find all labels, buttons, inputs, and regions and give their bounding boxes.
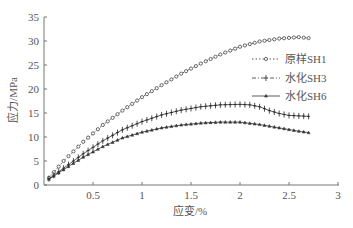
y-tick-label: 30 (28, 35, 40, 47)
y-axis-label: 应力/MPa (6, 77, 19, 123)
legend-item-2: 水化SH3 (252, 71, 327, 84)
y-tick-label: 35 (28, 11, 40, 23)
y-tick-label: 25 (28, 59, 40, 71)
x-tick-label: 3 (335, 189, 341, 201)
legend-label: 水化SH6 (285, 89, 327, 102)
series-layer (47, 36, 310, 182)
series-2 (47, 101, 310, 181)
series-1 (47, 36, 310, 180)
legend: 原样SH1水化SH3水化SH6 (252, 52, 327, 102)
x-tick-label: 2.5 (282, 189, 296, 201)
y-tick-label: 15 (28, 107, 40, 119)
x-tick-label: 0.5 (86, 189, 100, 201)
x-axis-label: 应变/% (173, 204, 207, 217)
y-tick-label: 20 (28, 83, 40, 95)
x-tick-label: 1 (139, 189, 145, 201)
y-tick-label: 5 (34, 155, 40, 167)
legend-label: 原样SH1 (285, 52, 327, 65)
y-tick-label: 0 (34, 179, 40, 191)
x-tick-label: 1.5 (184, 189, 198, 201)
legend-item-1: 原样SH1 (252, 52, 327, 65)
x-tick-label: 2 (237, 189, 243, 201)
legend-item-3: 水化SH6 (252, 89, 327, 102)
stress-strain-chart: 05101520253035 0.511.522.53 应变/% 应力/MPa … (0, 0, 353, 228)
legend-label: 水化SH3 (285, 71, 327, 84)
y-tick-label: 10 (28, 131, 40, 143)
